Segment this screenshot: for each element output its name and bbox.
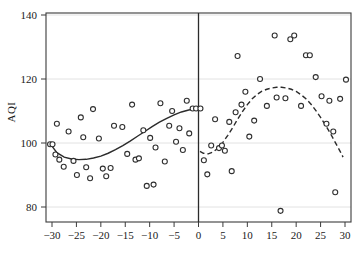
data-point: [187, 131, 192, 136]
data-point: [151, 182, 156, 187]
aqi-regression-discontinuity-chart: −30−25−20−15−10−5051015202530 8010012014…: [0, 0, 357, 259]
x-tick-label-10: 10: [242, 229, 254, 241]
data-point: [313, 75, 318, 80]
data-point: [61, 164, 66, 169]
x-tick-label--30: −30: [43, 229, 61, 241]
y-axis-title: AQI: [5, 102, 17, 123]
data-point: [170, 109, 175, 114]
x-tick-label--20: −20: [92, 229, 110, 241]
x-tick-label--15: −15: [117, 229, 135, 241]
data-point: [201, 158, 206, 163]
data-point: [274, 95, 279, 100]
data-point: [222, 148, 227, 153]
x-tick-label-15: 15: [266, 229, 278, 241]
x-tick-label--10: −10: [141, 229, 159, 241]
data-point: [50, 142, 55, 147]
data-point: [144, 183, 149, 188]
data-point: [283, 96, 288, 101]
data-point: [338, 96, 343, 101]
data-point: [88, 176, 93, 181]
data-point: [78, 115, 83, 120]
data-point: [219, 143, 224, 148]
data-point: [205, 172, 210, 177]
y-tick-label-120: 120: [21, 73, 38, 85]
data-point: [343, 77, 348, 82]
data-point: [54, 121, 59, 126]
data-point: [239, 102, 244, 107]
data-point: [307, 53, 312, 58]
x-tick-label-20: 20: [291, 229, 303, 241]
x-tick-label--25: −25: [68, 229, 86, 241]
data-point: [158, 101, 163, 106]
data-point: [209, 143, 214, 148]
data-point: [57, 157, 62, 162]
data-point: [141, 128, 146, 133]
y-tick-label-140: 140: [21, 9, 38, 21]
data-point: [184, 98, 189, 103]
data-point: [264, 103, 269, 108]
data-point: [153, 145, 158, 150]
data-point: [319, 94, 324, 99]
data-point: [235, 53, 240, 58]
data-point: [227, 119, 232, 124]
y-tick-label-100: 100: [21, 137, 38, 149]
data-point: [233, 110, 238, 115]
data-point: [247, 134, 252, 139]
data-point: [100, 166, 105, 171]
data-point: [136, 156, 141, 161]
data-point: [148, 135, 153, 140]
data-point: [74, 173, 79, 178]
y-tick-label-80: 80: [26, 201, 38, 213]
data-point: [71, 158, 76, 163]
x-tick-label-30: 30: [340, 229, 352, 241]
x-tick-label-0: 0: [196, 229, 202, 241]
data-point: [292, 33, 297, 38]
data-point: [333, 190, 338, 195]
data-point: [96, 136, 101, 141]
data-point: [120, 125, 125, 130]
data-point: [278, 208, 283, 213]
data-point: [198, 106, 203, 111]
data-point: [108, 165, 113, 170]
data-point: [324, 121, 329, 126]
data-point: [229, 169, 234, 174]
x-tick-label-25: 25: [315, 229, 327, 241]
data-point: [252, 118, 257, 123]
data-point: [331, 129, 336, 134]
data-point: [167, 123, 172, 128]
data-point: [66, 129, 71, 134]
data-point: [53, 152, 58, 157]
data-point: [213, 117, 218, 122]
data-point: [180, 148, 185, 153]
x-tick-label--5: −5: [168, 229, 180, 241]
data-point: [258, 77, 263, 82]
data-point: [112, 123, 117, 128]
data-point: [81, 135, 86, 140]
data-point: [243, 89, 248, 94]
data-point: [125, 151, 130, 156]
chart-container: −30−25−20−15−10−5051015202530 8010012014…: [0, 0, 357, 259]
x-tick-label-5: 5: [220, 229, 226, 241]
data-point: [272, 33, 277, 38]
data-point: [104, 174, 109, 179]
data-point: [91, 107, 96, 112]
data-point: [299, 103, 304, 108]
data-point: [84, 165, 89, 170]
data-point: [327, 98, 332, 103]
data-point: [162, 159, 167, 164]
data-point: [130, 102, 135, 107]
data-point: [174, 139, 179, 144]
data-point: [177, 126, 182, 131]
